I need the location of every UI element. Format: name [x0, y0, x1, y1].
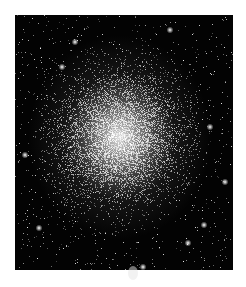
star-cluster-photo [15, 15, 233, 270]
star-field [15, 15, 233, 270]
watermark-mark [128, 266, 138, 280]
